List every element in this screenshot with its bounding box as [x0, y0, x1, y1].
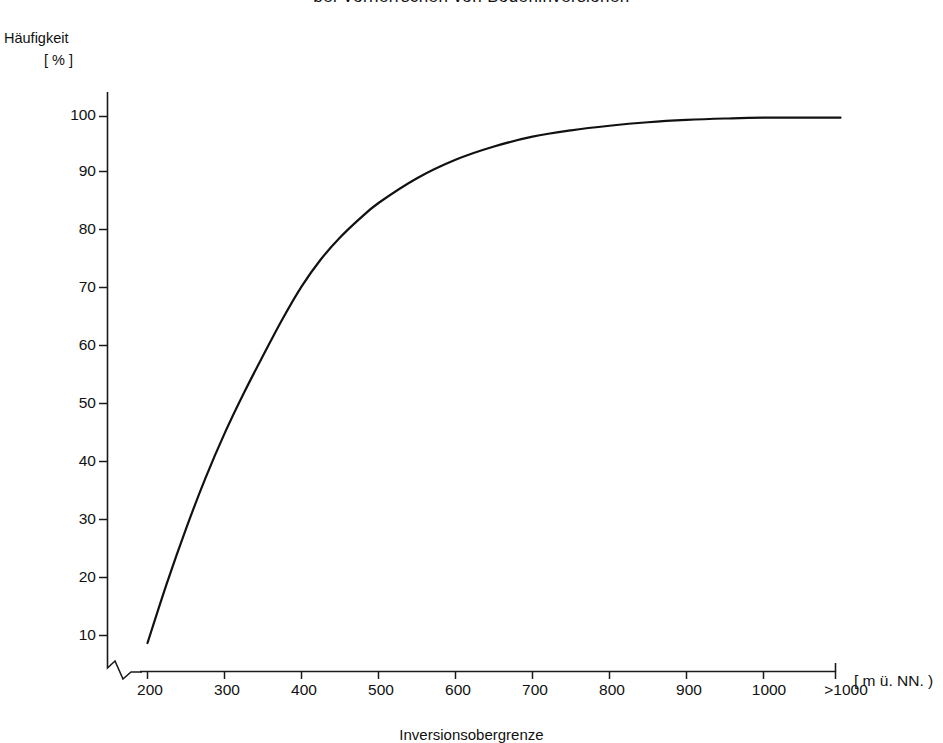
data-series-line	[148, 118, 841, 643]
axis-break-symbol	[108, 660, 143, 679]
y-tick-marks	[99, 117, 107, 636]
